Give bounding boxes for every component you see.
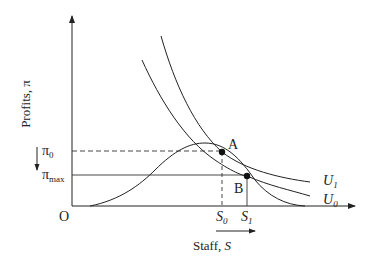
point-a-label: A xyxy=(228,137,239,152)
s1-label: S1 xyxy=(241,209,253,226)
pi0-label: π0 xyxy=(42,143,54,160)
pimax-label: πmax xyxy=(42,167,65,184)
u1-label: U1 xyxy=(323,173,338,190)
u1-curve xyxy=(161,36,310,182)
point-a xyxy=(219,149,225,155)
profit-staff-diagram: Profits, π π0 πmax O S0 S1 Staff, S A B … xyxy=(0,0,373,261)
y-axis-label: Profits, π xyxy=(18,80,33,128)
diagram-canvas: Profits, π π0 πmax O S0 S1 Staff, S A B … xyxy=(0,0,373,261)
point-b xyxy=(244,173,250,179)
origin-label: O xyxy=(59,209,69,224)
point-b-label: B xyxy=(234,181,243,196)
s0-label: S0 xyxy=(216,209,228,226)
u0-label: U0 xyxy=(323,192,338,209)
x-axis-label: Staff, S xyxy=(193,238,232,253)
u0-curve xyxy=(142,60,310,196)
